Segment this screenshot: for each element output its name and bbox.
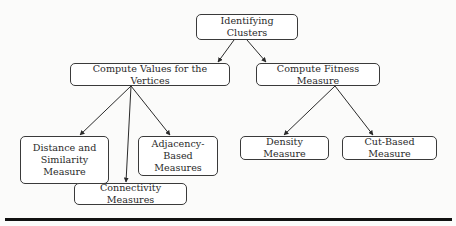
node-label: Compute Values for the Vertices — [74, 63, 226, 87]
node-identifying-clusters: Identifying Clusters — [196, 14, 298, 40]
node-distance-similarity: Distance and Similarity Measure — [20, 136, 109, 184]
edge-values-to-connectivity — [126, 86, 131, 182]
node-label: Connectivity Measures — [78, 182, 183, 206]
node-label: Identifying Clusters — [200, 15, 294, 39]
edge-values-to-adjacency — [131, 86, 170, 135]
edge-fitness-to-cut — [335, 86, 373, 135]
node-label: Adjacency-Based Measures — [141, 138, 215, 174]
node-label: Cut-Based Measure — [346, 136, 433, 160]
node-connectivity: Connectivity Measures — [74, 183, 187, 205]
node-cut-based: Cut-Based Measure — [342, 136, 437, 160]
node-adjacency-based: Adjacency-Based Measures — [138, 136, 218, 176]
node-label: Density Measure — [244, 136, 325, 160]
edge-values-to-distance — [80, 86, 131, 135]
diagram-canvas: Identifying Clusters Compute Values for … — [0, 0, 456, 226]
node-label: Distance and Similarity Measure — [27, 142, 102, 178]
edge-root-to-compute-fitness — [247, 40, 266, 62]
node-density: Density Measure — [240, 136, 329, 160]
edge-root-to-compute-values — [218, 40, 234, 62]
edge-fitness-to-density — [284, 86, 335, 135]
node-compute-fitness: Compute Fitness Measure — [256, 63, 380, 86]
node-compute-values: Compute Values for the Vertices — [70, 63, 230, 86]
bottom-rule-divider — [5, 218, 452, 221]
node-label: Compute Fitness Measure — [260, 63, 376, 87]
